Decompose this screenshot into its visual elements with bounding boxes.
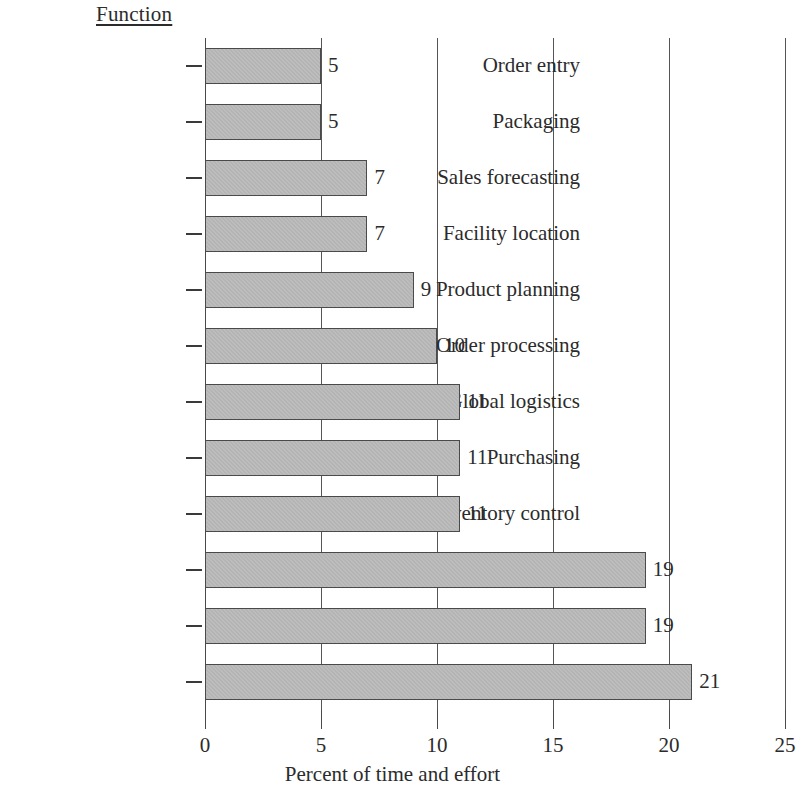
x-axis-tick <box>205 710 206 729</box>
category-tick <box>186 233 202 235</box>
bar-value-label: 5 <box>328 107 339 135</box>
bar-row: Purchasing11 <box>0 430 805 486</box>
bar <box>205 48 321 84</box>
x-axis-tick <box>437 710 438 729</box>
bar-row: Global logistics11 <box>0 374 805 430</box>
bar-row: Traffic management19 <box>0 598 805 654</box>
bar <box>205 496 460 532</box>
category-tick <box>186 513 202 515</box>
category-tick <box>186 345 202 347</box>
bar-value-label: 19 <box>653 555 674 583</box>
bar-value-label: 11 <box>467 443 487 471</box>
x-axis-tick-label: 0 <box>175 732 235 758</box>
bar-value-label: 5 <box>328 51 339 79</box>
x-axis-tick-label: 25 <box>755 732 805 758</box>
bar-value-label: 11 <box>467 499 487 527</box>
bar <box>205 664 692 700</box>
bar-value-label: 11 <box>467 387 487 415</box>
bar-row: Packaging5 <box>0 94 805 150</box>
category-tick <box>186 457 202 459</box>
bar-value-label: 7 <box>374 163 385 191</box>
x-axis-tick <box>553 710 554 729</box>
x-axis-tick <box>321 710 322 729</box>
bar-value-label: 10 <box>444 331 465 359</box>
category-tick <box>186 681 202 683</box>
x-axis-tick <box>669 710 670 729</box>
category-tick <box>186 289 202 291</box>
bar <box>205 384 460 420</box>
bar <box>205 216 367 252</box>
bar <box>205 104 321 140</box>
bar-row: Warehousing19 <box>0 542 805 598</box>
bar <box>205 272 414 308</box>
bar <box>205 328 437 364</box>
bar <box>205 552 646 588</box>
category-tick <box>186 177 202 179</box>
x-axis-tick-label: 15 <box>523 732 583 758</box>
bar <box>205 440 460 476</box>
category-tick <box>186 625 202 627</box>
category-tick <box>186 401 202 403</box>
bar-row: Inventory control11 <box>0 486 805 542</box>
category-tick <box>186 65 202 67</box>
x-axis-title: Percent of time and effort <box>205 762 580 787</box>
bar-chart: Function Order entry5Packaging5Sales for… <box>0 0 805 796</box>
bar-row: Sales forecasting7 <box>0 150 805 206</box>
category-tick <box>186 121 202 123</box>
bar-value-label: 21 <box>699 667 720 695</box>
category-tick <box>186 569 202 571</box>
bar <box>205 608 646 644</box>
bar-row: Order processing10 <box>0 318 805 374</box>
bar-value-label: 19 <box>653 611 674 639</box>
bar-value-label: 9 <box>421 275 432 303</box>
x-axis-tick-label: 5 <box>291 732 351 758</box>
bar <box>205 160 367 196</box>
plot-area: Order entry5Packaging5Sales forecasting7… <box>0 0 805 796</box>
x-axis-tick <box>785 710 786 729</box>
x-axis-tick-label: 20 <box>639 732 699 758</box>
bar-row: Facility location7 <box>0 206 805 262</box>
x-axis-tick-label: 10 <box>407 732 467 758</box>
bar-row: General management21 <box>0 654 805 710</box>
bar-value-label: 7 <box>374 219 385 247</box>
bar-row: Order entry5 <box>0 38 805 94</box>
bar-row: Product planning9 <box>0 262 805 318</box>
